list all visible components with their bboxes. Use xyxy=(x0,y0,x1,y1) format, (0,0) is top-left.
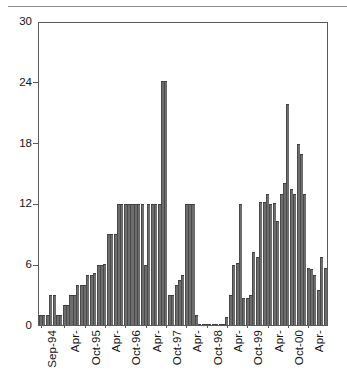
y-tick-label: 24 xyxy=(2,77,32,89)
x-tick-mark xyxy=(146,325,147,328)
x-tick-mark xyxy=(227,325,228,328)
y-tick-label: 6 xyxy=(2,259,32,271)
y-tick-label: 12 xyxy=(2,198,32,210)
x-tick-label: Oct-00 xyxy=(293,330,305,365)
bar-series xyxy=(39,23,327,325)
x-tick-mark xyxy=(41,325,42,328)
x-tick-label: Apr- xyxy=(273,330,285,352)
x-tick-label: Apr- xyxy=(110,330,122,352)
bar xyxy=(191,204,194,325)
x-tick-mark xyxy=(247,325,248,328)
x-tick-mark xyxy=(105,325,106,328)
x-tick-mark xyxy=(268,325,269,328)
page-divider-rule xyxy=(8,6,347,7)
x-tick-mark xyxy=(186,325,187,328)
x-tick-label: Apr- xyxy=(191,330,203,352)
x-tick-label: Apr- xyxy=(313,330,325,352)
x-tick-mark xyxy=(288,325,289,328)
x-tick-label: Apr- xyxy=(232,330,244,352)
y-tick-label: 30 xyxy=(2,16,32,28)
x-tick-label: Oct-96 xyxy=(130,330,142,365)
x-tick-mark xyxy=(85,325,86,328)
x-tick-mark xyxy=(166,325,167,328)
chart-figure: 0612182430 Sep-94Apr-Oct-95Apr-Oct-96Apr… xyxy=(0,0,347,390)
x-tick-mark xyxy=(64,325,65,328)
x-tick-label: Apr- xyxy=(151,330,163,352)
x-tick-label: Sep-94 xyxy=(46,330,58,368)
x-tick-label: Oct-95 xyxy=(90,330,102,365)
x-tick-label: Oct-98 xyxy=(212,330,224,365)
x-tick-label: Oct-97 xyxy=(171,330,183,365)
x-tick-label: Apr- xyxy=(69,330,81,352)
x-tick-label: Oct-99 xyxy=(252,330,264,365)
y-tick-label: 18 xyxy=(2,138,32,150)
x-tick-mark xyxy=(125,325,126,328)
x-axis: Sep-94Apr-Oct-95Apr-Oct-96Apr-Oct-97Apr-… xyxy=(38,328,328,390)
bar xyxy=(324,268,327,325)
bar xyxy=(164,81,167,325)
x-tick-mark xyxy=(308,325,309,328)
y-tick-label: 0 xyxy=(2,320,32,332)
x-tick-mark xyxy=(207,325,208,328)
